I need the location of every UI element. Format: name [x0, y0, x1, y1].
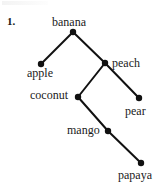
tree-edge-banana-apple — [41, 32, 73, 64]
tree-node-dot-banana — [70, 29, 76, 35]
tree-node-dot-papaya — [138, 160, 144, 166]
tree-node-dot-mango — [105, 128, 111, 134]
tree-node-label-coconut: coconut — [30, 89, 68, 101]
tree-node-dot-pear — [136, 95, 142, 101]
tree-node-dot-peach — [102, 60, 108, 66]
tree-edge-mango-papaya — [108, 131, 141, 163]
tree-node-label-peach: peach — [112, 57, 140, 69]
tree-node-label-pear: pear — [125, 105, 146, 117]
tree-edge-peach-coconut — [78, 63, 105, 97]
tree-node-label-papaya: papaya — [118, 169, 152, 181]
tree-diagram-figure: 1. bananaapplepeachcoconutpearmangopapay… — [0, 0, 162, 183]
tree-node-label-mango: mango — [67, 124, 100, 136]
tree-node-label-apple: apple — [27, 67, 53, 79]
tree-node-dot-coconut — [75, 94, 81, 100]
tree-node-label-banana: banana — [52, 16, 86, 28]
tree-edge-banana-peach — [73, 32, 105, 63]
